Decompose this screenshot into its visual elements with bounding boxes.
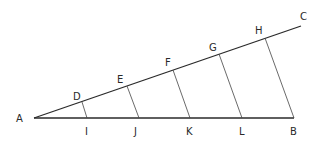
label-b: B xyxy=(290,126,297,137)
parallel-e-j xyxy=(127,86,139,118)
label-j: J xyxy=(133,126,137,137)
parallel-d-i xyxy=(82,102,87,118)
label-h: H xyxy=(255,25,263,36)
ray-ac xyxy=(34,26,301,118)
parallel-g-l xyxy=(219,54,242,118)
segment-division-diagram: A B C D E F G H I J K L xyxy=(0,0,325,141)
label-f: F xyxy=(165,57,171,68)
label-k: K xyxy=(186,126,193,137)
parallel-h-b xyxy=(265,38,294,118)
label-g: G xyxy=(209,42,217,53)
label-c: C xyxy=(300,11,307,22)
label-l: L xyxy=(239,126,245,137)
label-e: E xyxy=(117,74,123,85)
label-i: I xyxy=(85,126,88,137)
label-d: D xyxy=(73,91,81,102)
parallel-f-k xyxy=(173,70,190,118)
label-a: A xyxy=(16,113,23,124)
